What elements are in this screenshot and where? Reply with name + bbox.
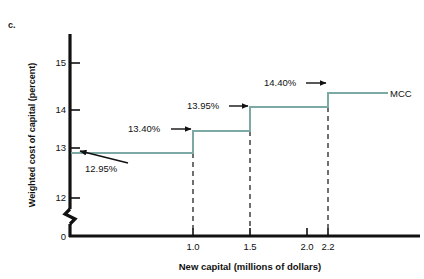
chart-figure: c. Weighted cost of capital (percent) Ne…: [0, 0, 424, 279]
chart-plot-area: [0, 0, 424, 279]
axis-break-icon: [65, 209, 75, 224]
mcc-step-line: [71, 93, 388, 153]
